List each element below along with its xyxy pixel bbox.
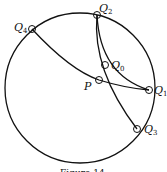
label-q3: Q3	[144, 123, 158, 137]
hyperbolic-disk-diagram: Q4 Q2 Q0 P Q1 Q3 Figure 14	[0, 0, 167, 172]
label-q4: Q4	[14, 21, 28, 35]
label-q0: Q0	[111, 59, 125, 73]
figure-caption: Figure 14	[60, 168, 105, 172]
label-p: P	[83, 80, 92, 93]
label-q2: Q2	[99, 2, 113, 16]
label-q1: Q1	[154, 84, 167, 98]
